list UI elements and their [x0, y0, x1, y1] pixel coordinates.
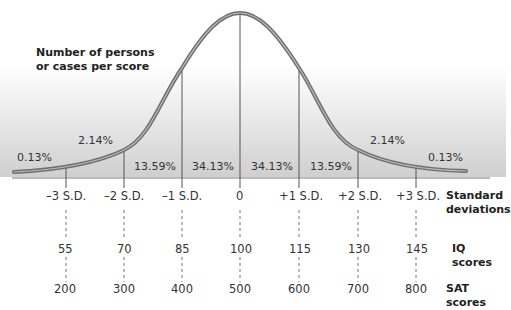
- pct-band-1: 0.13%: [17, 151, 52, 164]
- sd-row-label: Standard deviations: [446, 189, 511, 217]
- iq-tick: 115: [289, 242, 311, 256]
- sd-tick: +3 S.D.: [396, 189, 440, 203]
- pct-band-6: 13.59%: [310, 160, 352, 173]
- sat-tick: 700: [347, 282, 369, 296]
- sd-tick: 0: [236, 189, 243, 203]
- sd-tick: –1 S.D.: [162, 189, 202, 203]
- sd-row-label-2: deviations: [446, 203, 511, 217]
- sd-tick: +1 S.D.: [279, 189, 323, 203]
- sd-tick: +2 S.D.: [338, 189, 382, 203]
- iq-tick: 100: [230, 242, 252, 256]
- title-line-1: Number of persons: [36, 46, 155, 60]
- sat-tick: 400: [171, 282, 193, 296]
- sd-tick: –2 S.D.: [104, 189, 144, 203]
- sd-tick: –3 S.D.: [46, 189, 86, 203]
- pct-band-5: 34.13%: [251, 160, 293, 173]
- sat-tick: 800: [405, 282, 427, 296]
- iq-tick: 55: [58, 242, 73, 256]
- pct-band-3: 13.59%: [134, 160, 176, 173]
- sd-row-label-1: Standard: [446, 189, 511, 203]
- iq-tick: 85: [175, 242, 190, 256]
- title-line-2: or cases per score: [36, 60, 155, 74]
- sat-tick: 200: [54, 282, 76, 296]
- iq-tick: 145: [406, 242, 428, 256]
- pct-band-4: 34.13%: [192, 160, 234, 173]
- pct-band-2: 2.14%: [78, 134, 113, 147]
- sat-tick: 300: [113, 282, 135, 296]
- iq-tick: 70: [117, 242, 132, 256]
- chart-title: Number of persons or cases per score: [36, 46, 155, 74]
- pct-band-8: 0.13%: [428, 151, 463, 164]
- iq-row-label: IQ scores: [452, 242, 506, 270]
- sat-tick: 500: [229, 282, 251, 296]
- sat-row-label: SAT scores: [446, 282, 506, 310]
- sat-tick: 600: [288, 282, 310, 296]
- pct-band-7: 2.14%: [370, 134, 405, 147]
- iq-tick: 130: [348, 242, 370, 256]
- sd-lines: [66, 13, 416, 188]
